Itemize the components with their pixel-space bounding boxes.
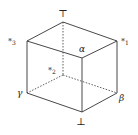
lattice-cube-diagram: ⊤ *3 *1 α *2 γ β ⊥ [0, 0, 138, 135]
star1-subscript: 1 [125, 39, 129, 46]
dashed-edges [27, 22, 117, 93]
edge-star3-alpha [27, 41, 82, 58]
edge-star2-beta [63, 75, 117, 93]
edge-beta-bottom [82, 93, 117, 112]
star2-label: *2 [48, 66, 56, 75]
edge-star2-gamma [27, 75, 63, 93]
edge-star1-alpha [82, 41, 117, 58]
star3-subscript: 3 [12, 39, 16, 46]
star2-subscript: 2 [52, 68, 56, 75]
edge-gamma-bottom [27, 93, 82, 112]
gamma-label: γ [17, 88, 23, 98]
bottom-label: ⊥ [76, 116, 85, 127]
solid-edges [27, 22, 117, 112]
top-label: ⊤ [58, 8, 67, 19]
beta-label: β [118, 93, 124, 103]
star3-label: *3 [8, 37, 16, 46]
star1-label: *1 [121, 37, 129, 46]
edge-top-star1 [63, 22, 117, 41]
edge-top-star3 [27, 22, 63, 41]
alpha-label: α [79, 44, 85, 54]
